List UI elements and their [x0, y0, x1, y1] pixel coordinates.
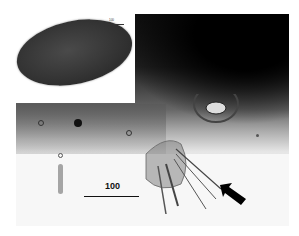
- arrow-icon: [220, 183, 246, 205]
- main-scale-label: 100: [105, 181, 120, 191]
- debris-particle: [74, 119, 82, 127]
- egg: [11, 10, 139, 96]
- debris-particle: [126, 130, 132, 136]
- debris-particle: [38, 120, 44, 126]
- larval-appendage-illustration: [136, 94, 266, 214]
- main-scale-bar: [84, 196, 139, 197]
- inset-egg-micrograph: 100: [0, 0, 135, 103]
- debris-particle: [58, 153, 63, 158]
- debris-particle: [256, 134, 259, 137]
- inset-scale-bar: [102, 24, 124, 25]
- debris-strand: [58, 164, 63, 194]
- inset-scale-label: 100: [109, 18, 114, 22]
